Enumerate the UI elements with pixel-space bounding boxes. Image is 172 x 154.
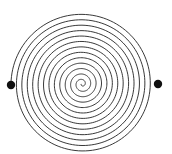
spiral-diagram: [0, 0, 172, 154]
spiral-curve: [11, 14, 150, 151]
left-endpoint-dot: [7, 81, 15, 89]
right-endpoint-dot: [154, 80, 162, 88]
